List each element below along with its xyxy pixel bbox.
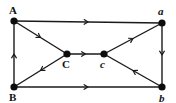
- node-label-a: a: [158, 5, 164, 17]
- node-label-C: C: [62, 58, 70, 70]
- node-b: [158, 83, 165, 90]
- node-A: [10, 17, 17, 24]
- node-B: [10, 83, 17, 90]
- node-label-B: B: [9, 91, 17, 103]
- node-label-A: A: [9, 4, 17, 16]
- node-label-c: c: [100, 58, 105, 70]
- node-label-b: b: [159, 92, 165, 103]
- node-C: [63, 50, 70, 57]
- node-a: [158, 19, 165, 26]
- node-c: [100, 50, 107, 57]
- directed-graph-diagram: A a C c B b: [0, 0, 176, 103]
- edges-group: [14, 21, 162, 87]
